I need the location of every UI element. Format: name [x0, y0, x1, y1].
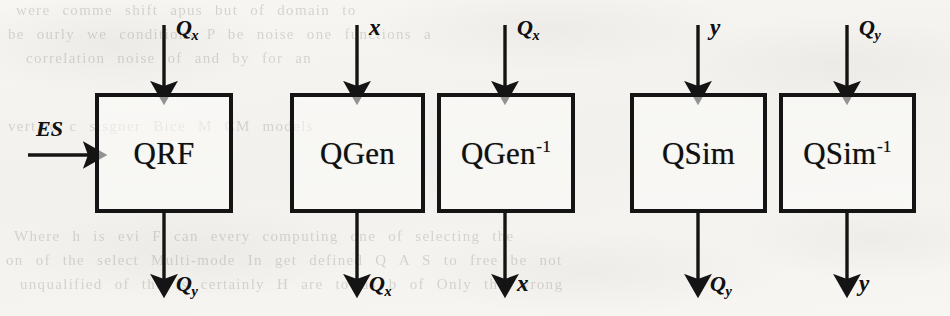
- block-qrf[interactable]: QRF: [95, 93, 233, 213]
- signal-label-qgen-inverse-input-top: Qx: [517, 17, 540, 39]
- signal-label-qsim-inverse-input-top-base: Q: [859, 15, 875, 40]
- signal-label-qgen-output-bottom: Qx: [369, 273, 392, 295]
- block-qsim-inverse-exponent: -1: [877, 137, 892, 156]
- signal-label-qsim-output-bottom: Qy: [710, 273, 732, 295]
- block-qsim-inverse-label: QSim-1: [803, 138, 892, 169]
- signal-label-qsim-inverse-input-top-sub: y: [874, 27, 880, 43]
- signal-label-qgen-inverse-input-top-sub: x: [532, 27, 539, 43]
- signal-label-qsim-inverse-output-bottom: y: [859, 272, 869, 295]
- block-qsim-label: QSim: [662, 138, 735, 169]
- signal-label-qrf-input-top-base: Q: [176, 15, 192, 40]
- signal-label-qsim-inverse-input-top: Qy: [859, 17, 881, 39]
- block-qsim-inverse-base: QSim: [803, 136, 876, 171]
- block-qgen-label: QGen: [320, 138, 395, 169]
- signal-label-qrf-input-top: Qx: [176, 17, 199, 39]
- block-qsim-inverse[interactable]: QSim-1: [779, 93, 916, 213]
- block-qrf-label: QRF: [134, 138, 195, 169]
- block-qgen-inverse-base: QGen: [461, 136, 536, 171]
- block-qgen-inverse[interactable]: QGen-1: [437, 93, 575, 213]
- diagram-stage: QRF QGen QGen-1 QSim QSim-1 Qx ES Qy x Q…: [0, 0, 950, 316]
- signal-label-qsim-output-bottom-sub: y: [725, 283, 731, 299]
- signal-label-qgen-input-top: x: [369, 16, 381, 39]
- signal-label-qgen-output-bottom-base: Q: [369, 271, 385, 296]
- quantum-block-diagram-figure: were comme shift apus but of domain to b…: [0, 0, 950, 316]
- signal-label-qgen-inverse-output-bottom: x: [517, 272, 529, 295]
- signal-label-qrf-output-bottom-base: Q: [176, 271, 192, 296]
- signal-label-qgen-inverse-input-top-base: Q: [517, 15, 533, 40]
- signal-label-es-input: ES: [36, 118, 63, 140]
- signal-label-qgen-output-bottom-sub: x: [384, 283, 391, 299]
- signal-label-qsim-input-top: y: [710, 16, 720, 39]
- signal-label-qsim-output-bottom-base: Q: [710, 271, 726, 296]
- block-qgen-inverse-exponent: -1: [536, 137, 551, 156]
- block-qgen-inverse-label: QGen-1: [461, 138, 551, 169]
- block-qgen[interactable]: QGen: [290, 93, 425, 213]
- signal-label-qrf-input-top-sub: x: [191, 27, 198, 43]
- block-qsim[interactable]: QSim: [630, 93, 767, 213]
- signal-label-qrf-output-bottom-sub: y: [191, 283, 197, 299]
- signal-label-qrf-output-bottom: Qy: [176, 273, 198, 295]
